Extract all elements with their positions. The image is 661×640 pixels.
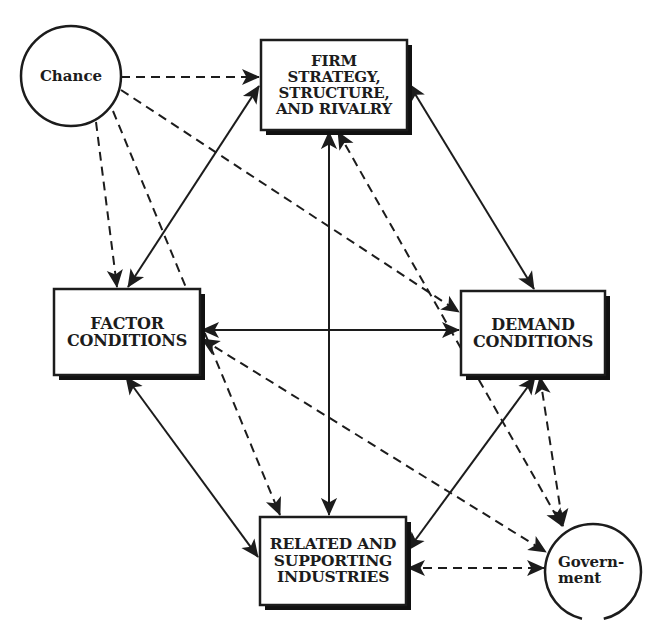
node-chance-circle: [21, 26, 121, 126]
figure-caption-cutoff: [0, 628, 661, 640]
edge-demand-to-government: [540, 377, 563, 526]
node-firm-box: [261, 40, 407, 130]
node-demand-box: [461, 291, 605, 375]
porter-diamond-diagram: Chance FIRM STRATEGY, STRUCTURE, AND RIV…: [0, 0, 661, 640]
edge-chance-to-factor: [96, 122, 117, 287]
edge-firm-to-factor: [128, 86, 259, 287]
edge-firm-to-demand: [409, 84, 534, 289]
node-factor-box: [54, 289, 200, 375]
edge-demand-to-related: [408, 377, 535, 550]
node-related-box: [260, 517, 406, 605]
diagram-canvas: [0, 0, 661, 640]
edge-factor-to-related: [126, 377, 258, 557]
node-government-circle: [545, 524, 641, 620]
